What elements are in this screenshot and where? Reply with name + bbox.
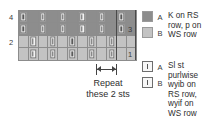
stitch-cell — [38, 11, 48, 23]
stitch-cell — [67, 23, 77, 35]
legend-description-knit: K on RS row, p on WS row — [168, 11, 222, 40]
slip-stitch-symbol-icon — [99, 12, 104, 21]
slip-stitch-symbol-icon — [79, 24, 84, 33]
slip-stitch-symbol-icon — [109, 37, 114, 46]
slip-stitch-symbol-icon — [21, 12, 26, 21]
legend-key-letter-a: A — [158, 14, 163, 22]
knitting-chart-figure: 4 2 3 1 Repeat these 2 sts A — [0, 0, 222, 130]
slip-stitch-symbol-icon — [50, 49, 55, 58]
chart-area: 4 2 3 1 Repeat these 2 sts — [0, 0, 140, 130]
repeat-arrow-right-tick — [116, 64, 117, 75]
legend-swatch-row-b: B — [142, 26, 156, 42]
stitch-cell — [67, 35, 77, 47]
repeat-span-arrow — [96, 64, 117, 75]
slip-stitch-symbol-icon — [119, 24, 124, 33]
row-label-2: 2 — [9, 39, 13, 47]
slip-stitch-symbol-icon — [50, 37, 55, 46]
stitch-cell — [19, 35, 29, 47]
legend-symbol-letter-a: A — [158, 64, 163, 72]
stitch-cell — [77, 11, 87, 23]
slip-stitch-symbol-icon — [40, 12, 45, 21]
stitch-grid — [18, 10, 137, 61]
row-label-3: 3 — [128, 26, 132, 34]
slip-stitch-symbol-icon-a — [142, 61, 153, 72]
stitch-cell — [107, 11, 117, 23]
legend-slip-line1: Sl st — [168, 61, 222, 71]
stitch-cell — [58, 48, 68, 60]
repeat-boundary-line — [116, 10, 117, 60]
slip-stitch-symbol-icon — [70, 49, 75, 58]
legend-color-swatch-b — [142, 27, 153, 38]
stitch-cell — [97, 48, 107, 60]
legend-knit-line3: WS row — [168, 30, 222, 40]
legend-slip-line3: wyib on — [168, 80, 222, 90]
stitch-row — [19, 11, 137, 23]
stitch-cell — [48, 11, 58, 23]
stitch-cell — [77, 23, 87, 35]
slip-stitch-symbol-icon — [21, 24, 26, 33]
stitch-cell — [19, 23, 29, 35]
stitch-cell — [107, 23, 117, 35]
legend-symbol-row-b: B — [142, 76, 156, 92]
row-label-1: 1 — [128, 51, 132, 59]
stitch-row — [19, 48, 137, 60]
stitch-cell — [67, 48, 77, 60]
stitch-cell — [77, 48, 87, 60]
stitch-cell — [116, 48, 126, 60]
stitch-cell — [28, 23, 38, 35]
stitch-cell — [97, 35, 107, 47]
slip-stitch-symbol-icon — [89, 37, 94, 46]
slip-stitch-symbol-icon — [70, 37, 75, 46]
legend-knit-line1: K on RS — [168, 11, 222, 21]
slip-stitch-symbol-icon — [30, 37, 35, 46]
stitch-cell — [97, 11, 107, 23]
stitch-cell — [28, 35, 38, 47]
stitch-cell — [116, 23, 126, 35]
stitch-cell — [97, 23, 107, 35]
slip-stitch-symbol-icon — [30, 49, 35, 58]
stitch-row — [19, 35, 137, 47]
stitch-cell — [19, 11, 29, 23]
legend-key-letter-b: B — [158, 30, 163, 38]
stitch-grid-table — [18, 10, 137, 61]
slip-stitch-symbol-icon — [109, 49, 114, 58]
stitch-cell — [77, 35, 87, 47]
legend-swatch-column: A B — [142, 10, 156, 42]
repeat-arrow-right-head-icon — [112, 66, 116, 72]
stitch-row — [19, 23, 137, 35]
row-label-4: 4 — [9, 14, 13, 22]
chart-right-edge-line — [135, 10, 136, 60]
stitch-cell — [87, 11, 97, 23]
stitch-cell — [19, 48, 29, 60]
stitch-cell — [116, 35, 126, 47]
stitch-cell — [48, 23, 58, 35]
stitch-cell — [28, 11, 38, 23]
legend-symbol-letter-b: B — [158, 80, 163, 88]
stitch-cell — [58, 23, 68, 35]
stitch-cell — [28, 48, 38, 60]
legend-description-slipstitch: Sl st purlwise wyib on RS row, wyif on W… — [168, 61, 222, 119]
slip-stitch-symbol-icon — [60, 12, 65, 21]
slip-stitch-symbol-icon — [79, 12, 84, 21]
legend: A B K on RS row, p on WS row A — [142, 10, 222, 128]
slip-stitch-symbol-icon-b — [142, 77, 153, 88]
repeat-arrow-left-head-icon — [97, 66, 101, 72]
legend-symbol-column: A B — [142, 60, 156, 92]
legend-symbol-row-a: A — [142, 60, 156, 76]
slip-stitch-symbol-icon — [40, 24, 45, 33]
stitch-cell — [87, 35, 97, 47]
stitch-cell — [58, 11, 68, 23]
legend-slip-line5: wyif on — [168, 99, 222, 109]
stitch-cell — [67, 11, 77, 23]
stitch-cell — [48, 48, 58, 60]
stitch-cell — [87, 23, 97, 35]
stitch-cell — [38, 48, 48, 60]
legend-color-swatch-a — [142, 11, 153, 22]
legend-slip-line2: purlwise — [168, 71, 222, 81]
stitch-cell — [38, 35, 48, 47]
slip-stitch-symbol-icon — [60, 24, 65, 33]
legend-knit-line2: row, p on — [168, 21, 222, 31]
legend-swatch-row-a: A — [142, 10, 156, 26]
stitch-cell — [87, 48, 97, 60]
slip-stitch-symbol-icon — [89, 49, 94, 58]
